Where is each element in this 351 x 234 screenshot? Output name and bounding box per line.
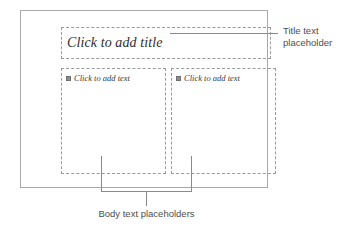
filled-square-bullet-icon [176, 76, 181, 81]
body-placeholder-right-prompt: Click to add text [184, 73, 240, 83]
body-placeholder-left-prompt: Click to add text [74, 73, 130, 83]
title-callout-line-1: Title text [283, 25, 349, 37]
body-callout-label: Body text placeholders [0, 208, 293, 220]
title-callout-label: Title text placeholder [283, 25, 349, 49]
body-placeholder-right[interactable]: Click to add text [171, 68, 276, 174]
body-prompt-left: Click to add text [66, 73, 130, 83]
slide-layout-diagram: Click to add title Click to add text Cli… [0, 0, 351, 234]
title-callout-line-2: placeholder [283, 37, 349, 49]
title-placeholder-prompt: Click to add title [67, 35, 163, 51]
body-callout-bracket-left-stem [101, 156, 102, 192]
filled-square-bullet-icon [66, 76, 71, 81]
body-callout-bracket-right-stem [191, 156, 192, 192]
title-placeholder[interactable]: Click to add title [61, 27, 271, 59]
body-placeholder-left[interactable]: Click to add text [61, 68, 166, 174]
body-prompt-right: Click to add text [176, 73, 240, 83]
title-callout-leader-line [170, 33, 278, 34]
body-callout-bracket-stem [146, 191, 147, 206]
slide-frame: Click to add title Click to add text Cli… [20, 10, 268, 188]
